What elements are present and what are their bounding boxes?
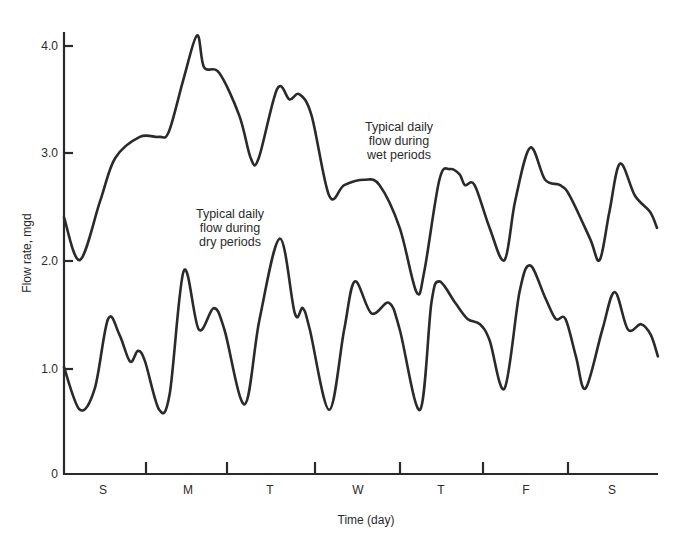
- wet-period-flow-curve: [64, 35, 657, 294]
- wet-annotation-line-1: Typical daily: [365, 120, 434, 134]
- y-tick-label: 0: [51, 467, 58, 481]
- x-day-label: S: [608, 483, 616, 497]
- wet-annotation-line-2: flow during: [369, 134, 429, 148]
- x-day-label: T: [437, 483, 445, 497]
- wet-period-annotation: Typical daily flow during wet periods: [365, 120, 434, 162]
- wet-annotation-line-3: wet periods: [366, 148, 431, 162]
- y-tick-label: 2.0: [41, 254, 58, 268]
- x-axis-day-labels: SMTWTFS: [99, 483, 616, 497]
- dry-period-annotation: Typical daily flow during dry periods: [196, 207, 265, 249]
- x-day-label: W: [352, 483, 364, 497]
- dry-annotation-line-3: dry periods: [199, 235, 261, 249]
- x-day-label: M: [183, 483, 193, 497]
- x-axis-ticks: [146, 462, 568, 474]
- x-day-label: S: [99, 483, 107, 497]
- x-day-label: T: [266, 483, 274, 497]
- x-axis-title: Time (day): [338, 513, 395, 527]
- y-axis-title: Flow rate, mgd: [20, 213, 34, 292]
- y-axis-ticks: 01.02.03.04.0: [41, 39, 73, 481]
- flow-rate-chart: 01.02.03.04.0 SMTWTFS Flow rate, mgd Tim…: [0, 0, 676, 539]
- dry-annotation-line-1: Typical daily: [196, 207, 265, 221]
- y-tick-label: 1.0: [41, 362, 58, 376]
- y-tick-label: 3.0: [41, 146, 58, 160]
- x-day-label: F: [522, 483, 529, 497]
- dry-period-flow-curve: [64, 239, 658, 414]
- axes: [63, 32, 658, 475]
- y-tick-label: 4.0: [41, 39, 58, 53]
- dry-annotation-line-2: flow during: [200, 221, 260, 235]
